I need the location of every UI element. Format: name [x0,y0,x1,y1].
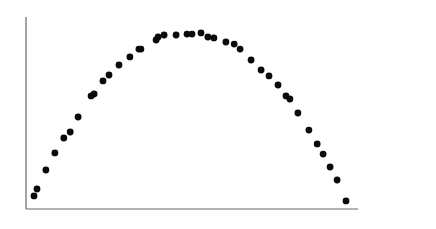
data-point [275,82,282,89]
data-point [287,96,294,103]
data-point [116,62,123,69]
data-points [31,30,350,205]
data-point [266,73,273,80]
data-point [189,31,196,38]
data-point [106,72,113,79]
data-point [327,164,334,171]
data-point [75,114,82,121]
data-point [173,32,180,39]
data-point [67,129,74,136]
data-point [31,193,38,200]
data-point [314,141,321,148]
data-point [211,35,218,42]
data-point [43,167,50,174]
data-point [223,39,230,46]
data-point [205,34,212,41]
data-point [237,46,244,53]
data-point [231,41,238,48]
data-point [100,78,107,85]
data-point [52,150,59,157]
data-point [34,186,41,193]
data-point [334,177,341,184]
data-point [248,57,255,64]
data-point [155,34,162,41]
data-point [91,91,98,98]
data-point [343,198,350,205]
data-point [320,151,327,158]
data-point [295,110,302,117]
scatter-chart [0,0,436,229]
data-point [258,67,265,74]
data-point [60,135,67,142]
data-point [138,46,145,53]
data-point [306,127,313,134]
data-point [161,32,168,39]
data-point [126,54,133,61]
data-point [198,30,205,37]
